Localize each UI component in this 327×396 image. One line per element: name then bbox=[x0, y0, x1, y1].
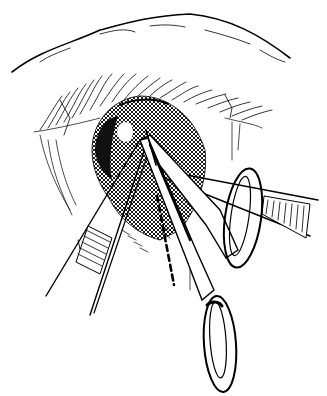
scissors-upper-ring bbox=[218, 166, 268, 270]
shaded-tissue bbox=[92, 96, 206, 240]
scissors-lower-ring bbox=[201, 295, 240, 393]
brow-fold bbox=[12, 14, 290, 72]
illustration-svg bbox=[0, 0, 327, 396]
surgical-illustration bbox=[0, 0, 327, 396]
